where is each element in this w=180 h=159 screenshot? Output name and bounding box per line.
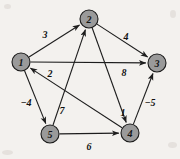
graph-node-4[interactable]: 4 — [121, 124, 139, 142]
nodes-layer: 12345 — [12, 10, 166, 143]
edge-5-to-4 — [59, 133, 118, 134]
node-label-2: 2 — [86, 14, 92, 25]
edge-1-to-2 — [29, 25, 80, 57]
graph-node-5[interactable]: 5 — [41, 125, 59, 143]
graph-node-3[interactable]: 3 — [148, 54, 166, 72]
edge-weight-2-3: 4 — [123, 31, 129, 42]
edge-weight-5-2: 7 — [60, 105, 66, 116]
edge-weight-4-1: 2 — [47, 68, 53, 79]
edge-weight-4-3: −5 — [144, 97, 155, 108]
graph-node-2[interactable]: 2 — [80, 10, 98, 28]
node-label-1: 1 — [19, 57, 24, 68]
graph-figure: 12345 3482−471−56 — [0, 0, 180, 159]
edge-weight-5-4: 6 — [87, 141, 92, 152]
graph-node-1[interactable]: 1 — [12, 53, 30, 71]
edge-weight-2-4: 1 — [121, 107, 126, 118]
edge-2-to-3 — [97, 24, 148, 57]
edge-1-to-3 — [30, 62, 145, 63]
edges-layer — [25, 24, 153, 134]
node-label-3: 3 — [154, 58, 160, 69]
edge-weight-1-5: −4 — [20, 97, 31, 108]
edge-5-to-2 — [53, 30, 85, 125]
graph-canvas: 12345 3482−471−56 — [0, 0, 180, 159]
node-label-5: 5 — [48, 129, 53, 140]
node-label-4: 4 — [127, 128, 133, 139]
edge-weight-1-3: 8 — [122, 67, 127, 78]
edge-weight-1-2: 3 — [42, 29, 48, 40]
